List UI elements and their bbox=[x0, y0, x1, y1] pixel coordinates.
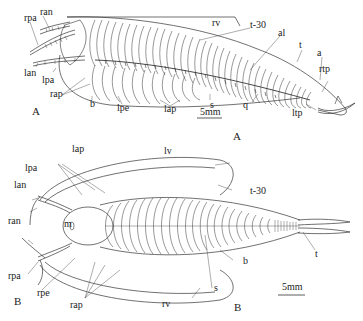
label-a-al: al bbox=[278, 28, 285, 38]
label-a-a: a bbox=[317, 48, 321, 58]
label-b-lap: lap bbox=[72, 144, 84, 154]
label-a-t: t bbox=[299, 40, 302, 50]
label-a-rap: rap bbox=[50, 89, 63, 99]
label-b-s: s bbox=[214, 283, 218, 293]
label-b-rv: rv bbox=[162, 299, 170, 309]
label-a-ltp: ltp bbox=[292, 108, 303, 118]
label-b-ran: ran bbox=[8, 216, 21, 226]
label-b-lpa: lpa bbox=[25, 163, 37, 173]
label-a-lan: lan bbox=[24, 68, 36, 78]
label-b-m: m bbox=[64, 219, 72, 229]
label-b-rap: rap bbox=[70, 300, 83, 310]
panel-label-b: B bbox=[14, 296, 21, 307]
label-b-lan: lan bbox=[14, 180, 26, 190]
label-b-t: t bbox=[315, 249, 318, 259]
caption-label-b: B bbox=[234, 302, 241, 313]
label-a-q: q bbox=[243, 100, 248, 110]
label-b-rpa: rpa bbox=[8, 271, 21, 281]
label-a-ran: ran bbox=[40, 7, 53, 17]
scale-bar-b-label: 5mm bbox=[282, 282, 303, 292]
label-b-b: b bbox=[243, 256, 248, 266]
label-a-lpa: lpa bbox=[42, 75, 54, 85]
label-a-b: b bbox=[90, 99, 95, 109]
panel-label-a: A bbox=[32, 106, 40, 117]
label-a-rpa: rpa bbox=[24, 13, 37, 23]
label-b-rpe: rpe bbox=[37, 288, 50, 298]
label-a-lpe: lpe bbox=[117, 103, 129, 113]
caption-label-a: A bbox=[233, 131, 241, 142]
label-a-t30: t-30 bbox=[250, 20, 266, 30]
label-a-rv: rv bbox=[212, 18, 220, 28]
label-a-rtp: rtp bbox=[319, 64, 330, 74]
label-b-t30: t-30 bbox=[250, 186, 266, 196]
figure-a-drawing bbox=[30, 16, 355, 118]
arthropod-reconstruction-drawing bbox=[0, 0, 363, 321]
label-b-lv: lv bbox=[164, 146, 172, 156]
scale-bar-a-label: 5mm bbox=[200, 107, 221, 117]
label-a-lap: lap bbox=[164, 104, 176, 114]
